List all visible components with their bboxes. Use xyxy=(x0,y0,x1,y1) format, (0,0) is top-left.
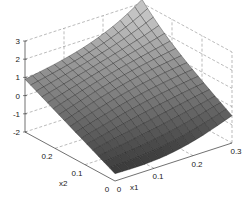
svg-text:0.2: 0.2 xyxy=(191,160,203,169)
svg-text:0: 0 xyxy=(105,185,110,194)
plot-canvas: -2-1012300.10.20.300.10.2 x1 x2 xyxy=(0,0,250,199)
svg-text:0.1: 0.1 xyxy=(152,172,164,181)
svg-text:0: 0 xyxy=(117,185,122,194)
svg-text:0.1: 0.1 xyxy=(71,169,83,178)
x2-axis-label: x2 xyxy=(59,179,68,188)
svg-text:-1: -1 xyxy=(13,110,21,119)
surface-plot: -2-1012300.10.20.300.10.2 x1 x2 xyxy=(0,0,250,199)
svg-text:-2: -2 xyxy=(13,128,21,137)
surface-mesh xyxy=(25,0,232,174)
svg-text:0.3: 0.3 xyxy=(230,147,242,156)
svg-text:0: 0 xyxy=(16,92,21,101)
svg-text:1: 1 xyxy=(16,73,21,82)
x1-axis-label: x1 xyxy=(130,183,139,192)
svg-text:3: 3 xyxy=(16,37,21,46)
svg-text:0.2: 0.2 xyxy=(41,152,53,161)
svg-text:2: 2 xyxy=(16,55,21,64)
